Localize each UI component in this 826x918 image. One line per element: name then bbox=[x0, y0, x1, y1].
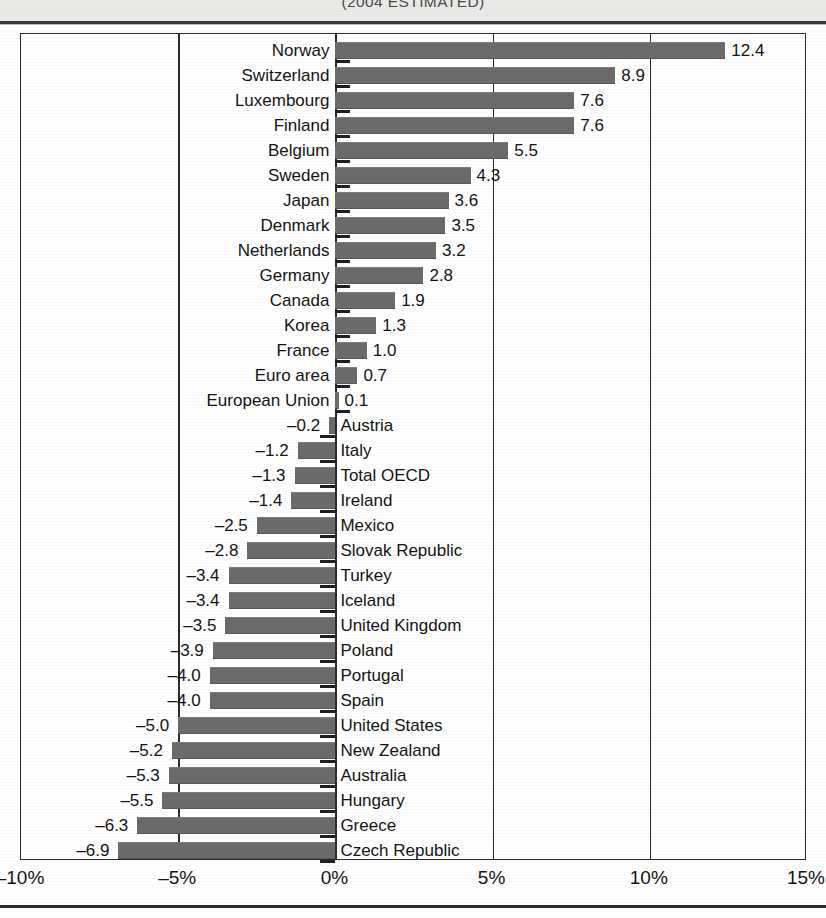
category-label: Australia bbox=[340, 765, 406, 786]
row-tick bbox=[335, 135, 350, 138]
bar-row: Czech Republic–6.9 bbox=[21, 839, 805, 864]
bar-row: Finland7.6 bbox=[21, 114, 805, 139]
bar-row: Germany2.8 bbox=[21, 264, 805, 289]
bar-row: United States–5.0 bbox=[21, 714, 805, 739]
value-label: –5.2 bbox=[130, 740, 163, 761]
value-label: 1.0 bbox=[373, 340, 397, 361]
bar bbox=[172, 742, 335, 759]
bar bbox=[335, 367, 357, 384]
bar bbox=[335, 192, 448, 209]
category-label: Belgium bbox=[268, 140, 329, 161]
row-tick bbox=[335, 210, 350, 213]
header-divider-rule-light bbox=[0, 24, 826, 25]
row-tick bbox=[320, 810, 335, 813]
row-tick bbox=[320, 785, 335, 788]
value-label: 0.1 bbox=[345, 390, 369, 411]
bar bbox=[257, 517, 336, 534]
bar bbox=[169, 767, 336, 784]
bar bbox=[335, 142, 508, 159]
row-tick bbox=[320, 535, 335, 538]
row-tick bbox=[320, 685, 335, 688]
category-label: Netherlands bbox=[238, 240, 330, 261]
bar bbox=[210, 692, 336, 709]
row-tick bbox=[335, 335, 350, 338]
row-tick bbox=[320, 460, 335, 463]
bar bbox=[335, 167, 470, 184]
bar bbox=[229, 592, 336, 609]
bar-row: Spain–4.0 bbox=[21, 689, 805, 714]
bar-row: Italy–1.2 bbox=[21, 439, 805, 464]
bar-rows: Norway12.4Switzerland8.9Luxembourg7.6Fin… bbox=[21, 34, 805, 859]
category-label: Total OECD bbox=[340, 465, 430, 486]
value-label: 8.9 bbox=[621, 65, 645, 86]
row-tick bbox=[335, 60, 350, 63]
x-tick-label: –5% bbox=[158, 866, 196, 890]
category-label: France bbox=[276, 340, 329, 361]
bar bbox=[335, 342, 366, 359]
bar-row: Japan3.6 bbox=[21, 189, 805, 214]
category-label: Switzerland bbox=[242, 65, 330, 86]
row-tick bbox=[320, 835, 335, 838]
bar-row: Mexico–2.5 bbox=[21, 514, 805, 539]
value-label: –6.3 bbox=[95, 815, 128, 836]
category-label: Turkey bbox=[340, 565, 391, 586]
row-tick bbox=[320, 435, 335, 438]
value-label: –5.3 bbox=[127, 765, 160, 786]
value-label: –1.2 bbox=[256, 440, 289, 461]
bar-row: Hungary–5.5 bbox=[21, 789, 805, 814]
category-label: United Kingdom bbox=[340, 615, 461, 636]
category-label: Hungary bbox=[340, 790, 404, 811]
bar-row: Poland–3.9 bbox=[21, 639, 805, 664]
chart-header-strip: (2004 ESTIMATED) bbox=[0, 0, 826, 22]
category-label: Portugal bbox=[340, 665, 403, 686]
value-label: 1.3 bbox=[382, 315, 406, 336]
value-label: –4.0 bbox=[168, 690, 201, 711]
bar bbox=[335, 292, 395, 309]
row-tick bbox=[320, 710, 335, 713]
value-label: –3.4 bbox=[186, 565, 219, 586]
value-label: –3.5 bbox=[183, 615, 216, 636]
bar bbox=[295, 467, 336, 484]
bar bbox=[247, 542, 335, 559]
value-label: 7.6 bbox=[580, 115, 604, 136]
x-tick-label: 5% bbox=[478, 866, 505, 890]
row-tick bbox=[335, 85, 350, 88]
row-tick bbox=[320, 560, 335, 563]
category-label: Iceland bbox=[340, 590, 395, 611]
value-label: 0.7 bbox=[363, 365, 387, 386]
row-tick bbox=[335, 110, 350, 113]
bar bbox=[213, 642, 336, 659]
bar bbox=[298, 442, 336, 459]
category-label: European Union bbox=[207, 390, 330, 411]
value-label: –0.2 bbox=[287, 415, 320, 436]
category-label: Greece bbox=[340, 815, 396, 836]
bar bbox=[335, 242, 436, 259]
row-tick bbox=[335, 310, 350, 313]
category-label: New Zealand bbox=[340, 740, 440, 761]
category-label: Poland bbox=[340, 640, 393, 661]
category-label: Spain bbox=[340, 690, 383, 711]
bar bbox=[137, 817, 335, 834]
bar bbox=[291, 492, 335, 509]
row-tick bbox=[335, 360, 350, 363]
category-label: Denmark bbox=[260, 215, 329, 236]
bar-row: New Zealand–5.2 bbox=[21, 739, 805, 764]
bar bbox=[210, 667, 336, 684]
category-label: Euro area bbox=[255, 365, 330, 386]
bar-row: Portugal–4.0 bbox=[21, 664, 805, 689]
row-tick bbox=[335, 160, 350, 163]
row-tick bbox=[335, 260, 350, 263]
bar-row: Luxembourg7.6 bbox=[21, 89, 805, 114]
row-tick bbox=[320, 860, 335, 863]
bar-row: Netherlands3.2 bbox=[21, 239, 805, 264]
value-label: –4.0 bbox=[168, 665, 201, 686]
category-label: Germany bbox=[259, 265, 329, 286]
bar bbox=[335, 42, 725, 59]
chart-title: (2004 ESTIMATED) bbox=[0, 0, 826, 11]
category-label: Slovak Republic bbox=[340, 540, 462, 561]
row-tick bbox=[320, 585, 335, 588]
bar bbox=[335, 117, 574, 134]
value-label: –1.3 bbox=[252, 465, 285, 486]
bar bbox=[335, 267, 423, 284]
bar bbox=[335, 392, 338, 409]
